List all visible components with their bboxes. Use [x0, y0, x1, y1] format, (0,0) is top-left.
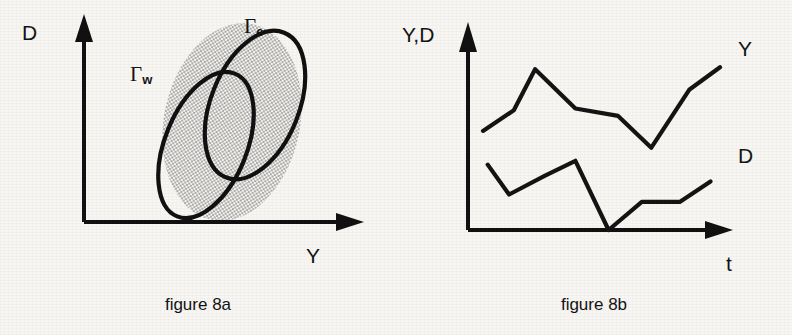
figure-8a-graphic	[0, 0, 396, 300]
region-gamma-w-label: Γw	[130, 64, 152, 86]
series-y-label: Y	[738, 38, 752, 59]
figure-8b-y-axis-label: Y,D	[402, 24, 434, 45]
series-y-line	[483, 67, 720, 147]
figure-8b-vertical-axis	[459, 22, 477, 230]
series-d-line	[488, 161, 711, 230]
figure-page: D Y Γe Γw figure 8a Y,D t Y D	[0, 0, 792, 335]
figure-8b-x-axis-label: t	[726, 253, 732, 274]
gamma-w-subscript: w	[142, 72, 152, 87]
series-d-label: D	[738, 145, 753, 166]
figure-8b-panel: Y,D t Y D figure 8b	[396, 0, 792, 335]
figure-8a-caption: figure 8a	[0, 295, 396, 315]
figure-8b-graphic	[396, 0, 792, 300]
region-gamma-e-label: Γe	[244, 16, 263, 38]
figure-8a-panel: D Y Γe Γw figure 8a	[0, 0, 396, 335]
figure-8a-x-axis-label: Y	[306, 245, 320, 266]
figure-8b-horizontal-axis	[468, 221, 733, 239]
figure-8a-y-axis-label: D	[22, 22, 37, 43]
gamma-e-glyph: Γ	[244, 14, 256, 38]
gamma-e-subscript: e	[256, 24, 263, 39]
figure-8a-vertical-axis	[75, 14, 93, 222]
gamma-w-glyph: Γ	[130, 62, 142, 86]
figure-8b-caption: figure 8b	[396, 295, 792, 315]
